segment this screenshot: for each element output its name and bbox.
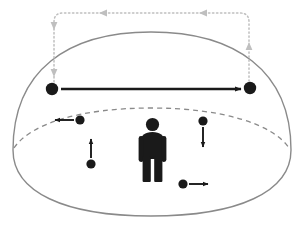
person-leg-left-icon xyxy=(143,156,151,182)
measure-arrowhead-left-lower xyxy=(51,69,58,77)
motion-dot xyxy=(75,115,84,124)
measure-arrowhead-top-left xyxy=(99,9,107,16)
measure-bracket xyxy=(51,9,253,82)
motion-dot xyxy=(198,116,207,125)
motion-dot xyxy=(178,179,187,188)
motion-marker-right-downward xyxy=(198,116,207,147)
measure-arrowhead-right-mid xyxy=(246,42,253,50)
anchor-marker-left xyxy=(46,83,58,95)
person-figure xyxy=(139,118,167,182)
motion-marker-right-outward xyxy=(178,179,208,188)
anchor-marker-right xyxy=(244,82,256,94)
person-leg-right-icon xyxy=(154,156,162,182)
person-torso-icon xyxy=(141,132,165,159)
diagram-svg xyxy=(0,0,305,235)
measure-bracket-path xyxy=(54,13,249,82)
motion-dot xyxy=(86,159,95,168)
measure-arrowhead-top-right xyxy=(199,9,207,16)
diagram-canvas xyxy=(0,0,305,235)
motion-marker-left-upward xyxy=(86,139,95,169)
span-arrow-group xyxy=(46,82,256,95)
measure-arrowhead-left-upper xyxy=(51,22,58,30)
person-head-icon xyxy=(146,118,159,131)
